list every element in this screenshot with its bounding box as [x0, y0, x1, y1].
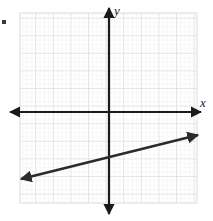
x-axis-label: x [199, 95, 206, 110]
scan-speck-artifact [2, 20, 6, 24]
y-axis-label: y [112, 3, 120, 18]
coordinate-plane-figure: x y [0, 0, 213, 221]
graph-canvas: x y [0, 0, 213, 221]
